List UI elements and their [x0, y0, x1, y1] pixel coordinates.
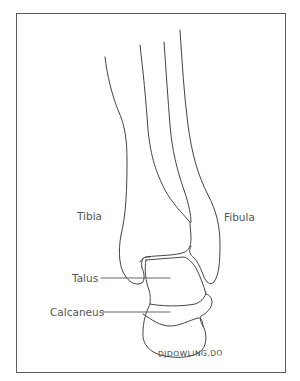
talus-outline	[145, 257, 206, 306]
tibia-label: Tibia	[77, 211, 102, 222]
calcaneus-label: Calcaneus	[50, 307, 104, 318]
talus-label: Talus	[72, 273, 98, 284]
calcaneus-inner-curve	[143, 314, 203, 326]
ankle-bones-drawing	[0, 0, 300, 381]
tibia-medial-outline	[105, 57, 144, 284]
fibula-lateral-outline	[180, 30, 220, 284]
artist-signature: DJDOWLING,DO	[158, 348, 223, 358]
tibia-plafond	[142, 222, 191, 268]
fibula-label: Fibula	[224, 212, 255, 223]
